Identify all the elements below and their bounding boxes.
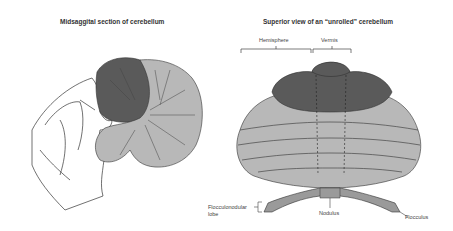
nodulus-shape [320,188,340,198]
flocculus-label: Flocculus [405,214,428,220]
vermis-top [312,62,350,76]
vermis-label: Vermis [321,37,338,43]
nodulus-label: Nodulus [319,210,339,216]
flocculonodular-label-line1: Flocculonodular [208,204,247,210]
flocculonodular-bracket [254,202,262,212]
cerebellum-diagram [0,0,453,231]
hemisphere-label: Hemisphere [259,37,289,43]
hemisphere-vermis-brackets [241,46,351,53]
flocculonodular-label-line2: lobe [208,211,218,217]
